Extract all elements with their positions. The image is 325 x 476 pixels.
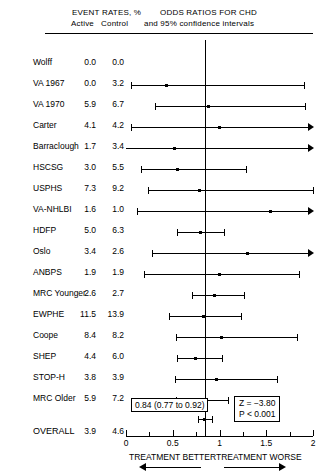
active-column-header: Active	[71, 19, 94, 28]
control-event-rate: 6.7	[100, 99, 124, 109]
ci-lower-cap	[131, 124, 132, 131]
treatment-worse-label: TREATMENT WORSE	[216, 452, 302, 462]
ci-upper-cap	[305, 103, 306, 110]
confidence-interval-line	[126, 148, 308, 149]
axis-tick-label: 2	[300, 438, 325, 448]
ci-upper-cap	[299, 271, 300, 278]
ci-lower-cap	[155, 103, 156, 110]
active-event-rate: 2.6	[70, 288, 96, 298]
study-name: VA 1970	[33, 99, 65, 109]
study-name: Wolff	[33, 57, 52, 67]
ci-upper-cap	[277, 376, 278, 383]
ci-lower-cap	[192, 292, 193, 299]
axis-tick-label: 0	[113, 438, 139, 448]
axis-tick-minor	[290, 432, 291, 436]
point-estimate-marker	[215, 378, 218, 381]
study-name: EWPHE	[33, 309, 64, 319]
study-name: Carter	[33, 120, 57, 130]
active-event-rate: 3.8	[70, 372, 96, 382]
control-column-header: Control	[101, 19, 128, 28]
x-axis-line	[126, 436, 313, 437]
confidence-interval-line	[152, 253, 308, 254]
point-estimate-marker	[246, 252, 249, 255]
confidence-interval-line	[177, 358, 222, 359]
ci-upper-cap	[304, 82, 305, 89]
event-rates-header: EVENT RATES, %	[72, 8, 141, 17]
ci-lower-cap	[137, 208, 138, 215]
ci-lower-cap	[148, 187, 149, 194]
confidence-interval-line	[144, 274, 299, 275]
ci-lower-cap	[177, 229, 178, 236]
active-event-rate: 3.0	[70, 162, 96, 172]
confidence-interval-line	[155, 106, 305, 107]
confidence-interval-line	[137, 211, 308, 212]
control-event-rate: 3.4	[100, 141, 124, 151]
treatment-better-arrow	[139, 463, 201, 472]
point-estimate-marker	[213, 294, 216, 297]
axis-tick-label: 1.5	[253, 438, 279, 448]
odds-ratio-header: ODDS RATIOS FOR CHD	[160, 8, 257, 17]
active-event-rate: 4.4	[70, 351, 96, 361]
control-event-rate: 1.0	[100, 204, 124, 214]
z-statistic: Z = −3.80	[239, 398, 275, 409]
confidence-interval-line	[177, 232, 224, 233]
active-event-rate: 1.9	[70, 267, 96, 277]
overall-control-rate: 4.6	[100, 426, 124, 436]
confidence-interval-subheader: and 95% confidence intervals	[144, 19, 254, 28]
ci-lower-cap	[176, 334, 177, 341]
study-name: HDFP	[33, 225, 56, 235]
ci-lower-cap	[141, 166, 142, 173]
statistics-box: Z = −3.80 P < 0.001	[234, 396, 280, 422]
control-event-rate: 8.2	[100, 330, 124, 340]
active-event-rate: 5.9	[70, 99, 96, 109]
axis-tick-label: 0.5	[160, 438, 186, 448]
point-estimate-marker	[176, 168, 179, 171]
axis-tick-major	[266, 430, 267, 436]
axis-tick-label: 1	[207, 438, 233, 448]
null-effect-reference-line	[205, 40, 206, 436]
treatment-better-label: TREATMENT BETTER	[129, 452, 216, 462]
ci-lower-cap	[144, 271, 145, 278]
point-estimate-marker	[218, 126, 221, 129]
ci-upper-arrow	[308, 123, 314, 131]
ci-upper-cap	[244, 292, 245, 299]
control-event-rate: 2.6	[100, 246, 124, 256]
active-event-rate: 4.1	[70, 120, 96, 130]
axis-tick-minor	[149, 432, 150, 436]
ci-upper-cap	[246, 166, 247, 173]
point-estimate-marker	[173, 147, 176, 150]
ci-upper-cap	[241, 313, 242, 320]
point-estimate-marker	[220, 336, 223, 339]
confidence-interval-line	[148, 190, 313, 191]
active-event-rate: 1.7	[70, 141, 96, 151]
study-name: Oslo	[33, 246, 50, 256]
ci-upper-cap	[313, 187, 314, 194]
control-event-rate: 3.9	[100, 372, 124, 382]
active-event-rate: 1.6	[70, 204, 96, 214]
active-event-rate: 5.0	[70, 225, 96, 235]
overall-ci-lower-cap	[198, 416, 199, 423]
axis-tick-minor	[243, 432, 244, 436]
point-estimate-marker	[207, 105, 210, 108]
control-event-rate: 2.7	[100, 288, 124, 298]
confidence-interval-line	[131, 85, 304, 86]
control-event-rate: 5.5	[100, 162, 124, 172]
axis-tick-minor	[196, 432, 197, 436]
p-value: P < 0.001	[239, 409, 275, 420]
control-event-rate: 9.2	[100, 183, 124, 193]
point-estimate-marker	[269, 210, 272, 213]
ci-upper-arrow	[308, 249, 314, 257]
overall-estimate-box: 0.84 (0.77 to 0.92)	[131, 398, 208, 412]
axis-tick-major	[126, 430, 127, 436]
overall-ci-upper-cap	[212, 416, 213, 423]
control-event-rate: 6.0	[100, 351, 124, 361]
forest-plot-figure: EVENT RATES, % Active Control ODDS RATIO…	[0, 0, 325, 476]
active-event-rate: 7.3	[70, 183, 96, 193]
confidence-interval-line	[192, 295, 243, 296]
control-event-rate: 1.9	[100, 267, 124, 277]
point-estimate-marker	[198, 189, 201, 192]
point-estimate-marker	[194, 357, 197, 360]
study-name: HSCSG	[33, 162, 63, 172]
ci-upper-cap	[224, 229, 225, 236]
point-estimate-marker	[218, 273, 221, 276]
